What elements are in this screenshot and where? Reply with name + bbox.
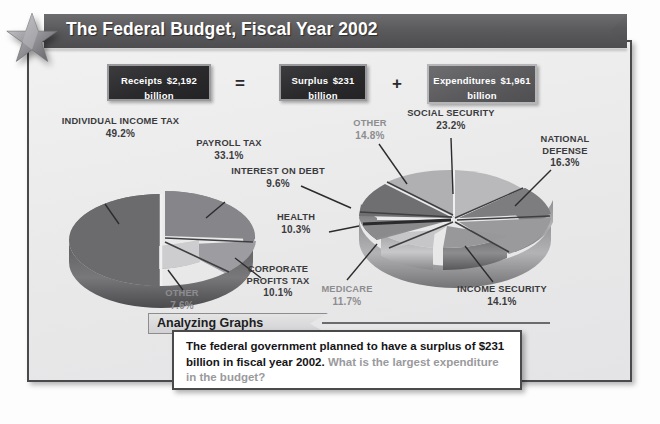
pie-charts-area: Individual Income Tax 49.2% Payroll Tax … [29,112,634,342]
label-medicare-pct: 11.7% [301,296,393,308]
expenditures-label: Expenditures [433,75,496,86]
receipts-box: Receipts $2,192 billion [107,64,211,101]
label-interest-on-debt-name: Interest on Debt [213,166,343,178]
callout-text: The federal government planned to have a… [186,339,508,386]
label-national-defense-pct: 16.3% [521,157,609,169]
label-payroll-tax: Payroll Tax 33.1% [181,138,277,161]
label-health: Health 10.3% [261,212,331,235]
label-individual-income-tax-name: Individual Income Tax [33,116,208,128]
receipts-cut-2 [165,238,253,242]
budget-equation-row: Receipts $2,192 billion = Surplus $231 b… [29,64,630,110]
star-icon [4,10,60,68]
label-health-pct: 10.3% [261,224,331,236]
title-banner: The Federal Budget, Fiscal Year 2002 [44,14,627,48]
label-payroll-tax-pct: 33.1% [181,150,277,162]
label-national-defense-name2: Defense [521,146,609,158]
label-payroll-tax-name: Payroll Tax [181,138,277,150]
banner-shadow [44,48,627,51]
receipts-label: Receipts [121,75,162,86]
leader-other-expenditures [379,144,407,184]
expenditures-box: Expenditures $1,961 billion [427,64,537,104]
label-health-name: Health [261,212,331,224]
label-other-receipts-name: Other [147,288,217,300]
expenditures-pie [301,138,553,288]
label-corporate-profits-tax-name1: Corporate [233,264,323,276]
label-medicare-name: Medicare [301,284,393,296]
label-other-receipts: Other 7.6% [147,288,217,311]
label-individual-income-tax: Individual Income Tax 49.2% [33,116,208,139]
label-other-expenditures-name: Other [335,118,405,130]
callout-caption-box: The federal government planned to have a… [172,330,522,390]
page-title: The Federal Budget, Fiscal Year 2002 [66,19,378,40]
surplus-label: Surplus [291,75,328,86]
label-income-security-pct: 14.1% [443,296,561,308]
label-social-security-pct: 23.2% [391,120,511,132]
leader-interest-on-debt [301,186,351,208]
label-interest-on-debt-pct: 9.6% [213,178,343,190]
page-root: Receipts $2,192 billion = Surplus $231 b… [0,0,660,424]
label-income-security: Income Security 14.1% [443,284,561,307]
callout-rule [322,322,550,324]
label-other-expenditures: Other 14.8% [335,118,405,141]
label-other-receipts-pct: 7.6% [147,300,217,312]
label-interest-on-debt: Interest on Debt 9.6% [213,166,343,189]
label-national-defense: National Defense 16.3% [521,134,609,169]
label-national-defense-name1: National [521,134,609,146]
plus-operator: + [392,74,402,94]
analyzing-graphs-label: Analyzing Graphs [157,316,263,330]
label-income-security-name: Income Security [443,284,561,296]
equals-operator: = [235,74,245,94]
surplus-box: Surplus $231 billion [279,64,367,101]
label-social-security: Social Security 23.2% [391,108,511,131]
leader-health [329,226,359,232]
label-medicare: Medicare 11.7% [301,284,393,307]
label-other-expenditures-pct: 14.8% [335,130,405,142]
